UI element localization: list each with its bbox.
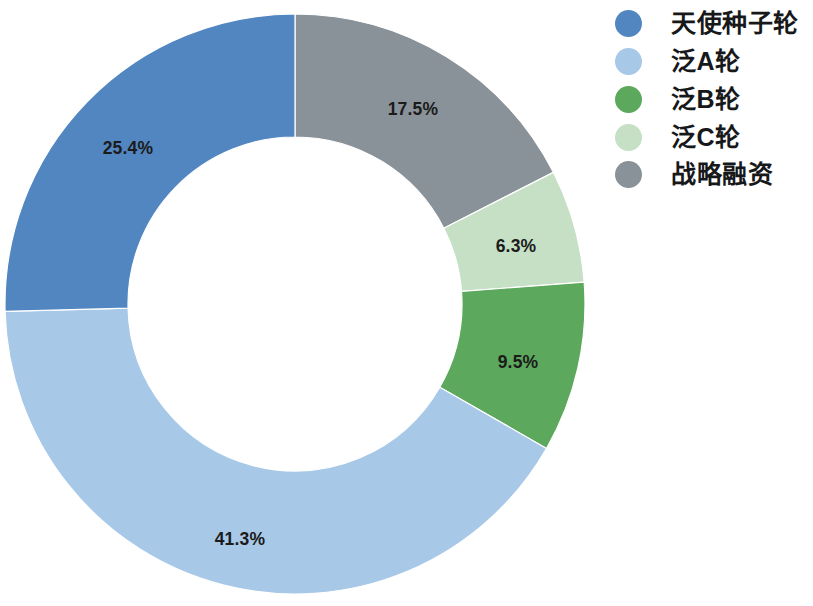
slice-percentage-label: 25.4% — [103, 138, 154, 158]
slice-percentage-label: 9.5% — [498, 352, 539, 372]
legend-item-label: 天使种子轮 — [671, 11, 799, 36]
donut-slice[interactable] — [5, 14, 295, 311]
donut-slice-group — [5, 14, 585, 594]
circle-marker-icon — [615, 48, 642, 75]
donut-chart: 17.5%6.3%9.5%41.3%25.4% 天使种子轮泛A轮泛B轮泛C轮战略… — [0, 0, 813, 606]
legend-item-label: 泛C轮 — [671, 125, 741, 150]
chart-legend: 天使种子轮泛A轮泛B轮泛C轮战略融资 — [610, 0, 813, 200]
legend-item-label: 泛B轮 — [671, 87, 741, 112]
legend-item[interactable]: 泛A轮 — [610, 44, 741, 78]
legend-item[interactable]: 天使种子轮 — [610, 6, 799, 40]
legend-item[interactable]: 战略融资 — [610, 157, 773, 191]
legend-item[interactable]: 泛B轮 — [610, 82, 741, 116]
legend-item[interactable]: 泛C轮 — [610, 120, 741, 154]
slice-percentage-label: 41.3% — [215, 529, 266, 549]
legend-item-label: 战略融资 — [671, 162, 773, 187]
circle-marker-icon — [615, 124, 642, 151]
slice-percentage-label: 17.5% — [388, 99, 439, 119]
circle-marker-icon — [615, 86, 642, 113]
circle-marker-icon — [615, 161, 642, 188]
slice-percentage-label: 6.3% — [496, 236, 537, 256]
circle-marker-icon — [615, 10, 642, 37]
legend-item-label: 泛A轮 — [671, 49, 741, 74]
